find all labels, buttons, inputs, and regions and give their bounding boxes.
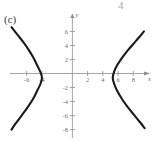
x-tick-label: 6 (116, 76, 119, 83)
x-axis-label: x (147, 75, 151, 82)
curves-group (12, 27, 145, 129)
x-tick-label: 8 (132, 76, 135, 83)
hyperbola-plot: -6-42468642-2-4-6-8 xy (0, 0, 158, 142)
axes-group (10, 14, 150, 138)
axis-names-group: xy (75, 11, 151, 82)
y-tick-label: -4 (63, 98, 69, 105)
x-tick-label: -6 (24, 76, 29, 83)
y-tick-label: -2 (63, 84, 68, 91)
x-tick-label: 2 (86, 76, 89, 83)
y-axis-label: y (75, 11, 79, 18)
y-tick-label: -8 (63, 126, 68, 133)
x-tick-label: 4 (101, 76, 105, 83)
y-tick-label: -6 (63, 112, 68, 119)
y-tick-label: 2 (65, 56, 68, 63)
figure-container: 4 (c) -6-42468642-2-4-6-8 xy (0, 0, 158, 142)
y-tick-label: 4 (65, 42, 69, 49)
y-axis-arrow-icon (70, 14, 74, 18)
y-tick-label: 6 (65, 28, 68, 35)
